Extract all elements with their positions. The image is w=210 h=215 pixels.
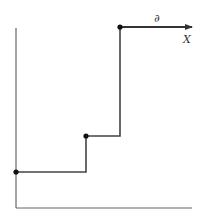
axis-label-x: X <box>182 33 192 46</box>
point-3 <box>117 24 122 29</box>
point-1 <box>13 169 18 174</box>
arrow-label: ∂ <box>154 12 160 25</box>
step-path <box>16 27 120 172</box>
step-diagram: ∂ X <box>0 0 210 215</box>
point-2 <box>83 133 88 138</box>
